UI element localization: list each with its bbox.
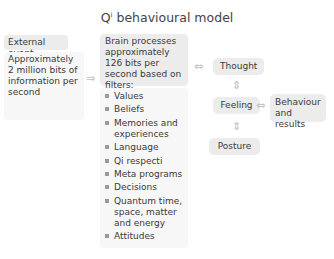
filter-item: Memories and experiences	[105, 118, 183, 140]
vertical-double-arrow-icon: ⇕	[232, 80, 241, 91]
title-prefix: Q	[101, 10, 111, 25]
title-rest: behavioural model	[113, 10, 234, 25]
filter-item: Beliefs	[105, 104, 183, 115]
brain-processes-heading: Brain processes approximately 126 bits p…	[100, 34, 188, 86]
filter-item: Language	[105, 142, 183, 153]
behaviour-results-node: Behaviour and results	[270, 94, 326, 122]
double-arrow-icon: ⇔	[194, 61, 203, 72]
filter-item: Meta programs	[105, 169, 183, 180]
filter-item: Decisions	[105, 182, 183, 193]
filters-list: Values Beliefs Memories and experiences …	[105, 91, 183, 242]
thought-node: Thought	[213, 58, 264, 75]
posture-node: Posture	[209, 138, 260, 155]
filter-item: Attitudes	[105, 231, 183, 242]
double-arrow-icon: ⇔	[256, 100, 265, 111]
right-arrow-icon: ⇒	[86, 73, 95, 84]
external-event-body: Approximately 2 million bits of informat…	[4, 52, 84, 120]
external-event-heading: External event	[4, 35, 68, 50]
diagram-title: Qi behavioural model	[0, 10, 334, 25]
filter-item: Values	[105, 91, 183, 102]
filters-list-box: Values Beliefs Memories and experiences …	[100, 88, 188, 248]
filter-item: Qi respecti	[105, 156, 183, 167]
vertical-double-arrow-icon: ⇕	[232, 121, 241, 132]
filter-item: Quantum time, space, matter and energy	[105, 196, 183, 229]
feeling-node: Feeling	[213, 97, 260, 114]
